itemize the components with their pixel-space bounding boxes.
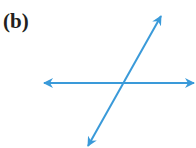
diagonal-line — [88, 16, 161, 146]
figure-canvas: (b) — [0, 0, 196, 148]
intersecting-lines-diagram — [0, 0, 196, 148]
